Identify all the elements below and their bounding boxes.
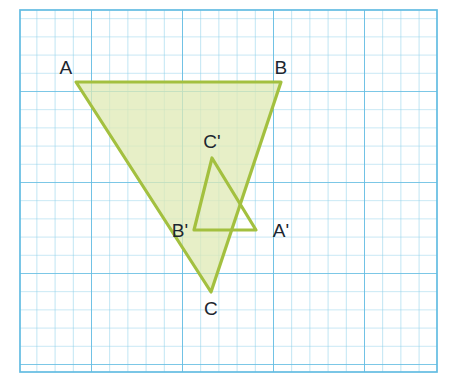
label-vertex-b-prime: B' [172, 220, 189, 241]
label-vertex-c: C [204, 298, 218, 319]
figure-canvas: A B C A' B' C' [0, 0, 451, 385]
label-vertex-b: B [275, 57, 288, 78]
label-vertex-c-prime: C' [203, 131, 221, 152]
label-vertex-a-prime: A' [273, 220, 290, 241]
geometry-diagram: A B C A' B' C' [0, 0, 451, 385]
label-vertex-a: A [60, 57, 73, 78]
